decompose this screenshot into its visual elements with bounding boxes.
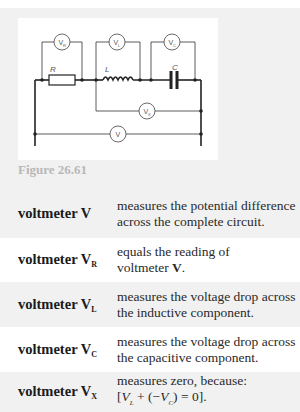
voltmeter-v-icon: V [110, 126, 126, 142]
row-label: voltmeter VR [0, 251, 117, 269]
circuit-svg: R L C V R [0, 0, 240, 170]
table-row: voltmeter VL measures the voltage drop a… [0, 282, 300, 327]
voltmeter-vc-icon: V C [164, 34, 180, 50]
row-description: equals the reading of voltmeter V. [117, 244, 300, 276]
table-row: voltmeter V measures the potential diffe… [0, 190, 300, 238]
svg-text:X: X [148, 112, 151, 117]
table-row: voltmeter VC measures the voltage drop a… [0, 327, 300, 372]
resistor-symbol [49, 75, 75, 85]
inductor-symbol [103, 77, 133, 80]
row-description: measures the potential difference across… [117, 198, 300, 230]
svg-text:C: C [173, 43, 176, 48]
svg-text:V: V [116, 131, 121, 138]
inductor-label: L [105, 65, 109, 74]
voltmeter-table: voltmeter V measures the potential diffe… [0, 190, 300, 412]
row-label: voltmeter VC [0, 341, 117, 359]
table-row: voltmeter VR equals the reading of voltm… [0, 238, 300, 282]
row-description: measures the voltage drop across the cap… [117, 334, 300, 366]
formula: [VL + (−VC) = 0]. [117, 389, 300, 411]
circuit-diagram: R L C V R [18, 18, 218, 160]
table-row: voltmeter VX measures zero, because: [VL… [0, 372, 300, 412]
row-description: measures the voltage drop across the ind… [117, 289, 300, 321]
svg-text:R: R [63, 43, 66, 48]
voltmeter-vx-icon: V X [139, 103, 155, 119]
figure-panel: R L C V R [0, 8, 300, 190]
figure-caption: Figure 26.61 [18, 162, 87, 178]
row-description: measures zero, because: [VL + (−VC) = 0]… [117, 373, 300, 411]
resistor-label: R [50, 65, 56, 74]
voltmeter-vr-icon: V R [54, 34, 70, 50]
row-label: voltmeter VL [0, 296, 117, 314]
row-label: voltmeter V [0, 205, 117, 223]
capacitor-plate-left [170, 71, 173, 89]
capacitor-plate-right [176, 71, 179, 89]
capacitor-label: C [172, 63, 178, 72]
voltmeter-vl-icon: V L [109, 34, 125, 50]
row-label: voltmeter VX [0, 383, 117, 401]
